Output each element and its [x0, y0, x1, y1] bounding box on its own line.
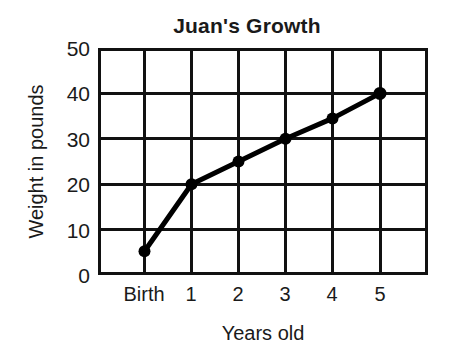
x-axis-tick-labels: Birth 1 2 3 4 5	[0, 283, 454, 313]
x-tick-label-birth: Birth	[123, 283, 164, 306]
y-axis-tick-labels: 0 10 20 30 40 50	[40, 48, 90, 275]
grid-lines	[98, 48, 428, 275]
data-point-birth	[139, 245, 151, 257]
x-tick-label-5: 5	[374, 283, 385, 306]
plot-area	[98, 48, 428, 275]
y-tick-label-30: 30	[44, 128, 90, 149]
growth-line-chart-figure: Juan's Growth Weight in pounds 0 10 20 3…	[0, 0, 454, 360]
y-tick-label-20: 20	[44, 174, 90, 195]
data-point-1	[186, 178, 198, 190]
data-point-2	[233, 156, 245, 168]
data-point-3	[280, 133, 292, 145]
data-point-5	[374, 87, 387, 100]
x-tick-label-4: 4	[326, 283, 337, 306]
x-tick-label-1: 1	[185, 283, 196, 306]
data-series-weight	[139, 87, 387, 257]
x-axis-title: Years old	[98, 322, 428, 345]
y-tick-label-40: 40	[44, 83, 90, 104]
chart-title: Juan's Growth	[0, 14, 454, 38]
y-tick-label-50: 50	[44, 38, 90, 59]
data-point-4	[327, 112, 339, 124]
y-tick-label-10: 10	[44, 219, 90, 240]
x-tick-label-3: 3	[279, 283, 290, 306]
x-tick-label-2: 2	[232, 283, 243, 306]
